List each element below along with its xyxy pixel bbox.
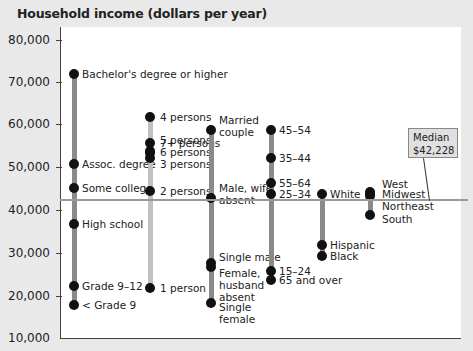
point-label: High school (82, 218, 143, 230)
range-line (209, 130, 214, 303)
y-tick-mark (56, 82, 62, 83)
median-box: Median $42,228 (408, 128, 458, 158)
data-point (266, 125, 276, 135)
y-tick-label: 60,000 (0, 117, 50, 131)
chart-title: Household income (dollars per year) (17, 6, 267, 21)
point-label: Singlefemale (219, 301, 255, 325)
point-label: Marriedcouple (219, 114, 259, 138)
y-tick-mark (56, 296, 62, 297)
data-point (266, 153, 276, 163)
y-tick-label: 20,000 (0, 289, 50, 303)
data-point (266, 275, 276, 285)
median-label: Median (413, 131, 453, 144)
y-tick-label: 10,000 (0, 331, 50, 345)
point-label: < Grade 9 (82, 299, 136, 311)
point-label: 6 persons (160, 146, 211, 158)
point-label: Northeast (382, 200, 434, 212)
data-point (69, 183, 79, 193)
point-label: Male, wifeabsent (219, 182, 272, 206)
point-label: 35–44 (279, 152, 311, 164)
y-tick-mark (56, 253, 62, 254)
y-tick-label: 40,000 (0, 203, 50, 217)
point-label: Female,husbandabsent (219, 267, 264, 303)
y-tick-mark (56, 210, 62, 211)
y-tick-mark (56, 167, 62, 168)
data-point (69, 219, 79, 229)
median-line (60, 199, 468, 201)
point-label: Grade 9–12 (82, 280, 143, 292)
point-label: South (382, 213, 413, 225)
point-label: 2 persons (160, 185, 211, 197)
y-tick-label: 70,000 (0, 75, 50, 89)
data-point (145, 186, 155, 196)
point-label: Bachelor's degree or higher (82, 68, 228, 80)
y-tick-label: 30,000 (0, 246, 50, 260)
y-tick-label: 50,000 (0, 160, 50, 174)
y-tick-label: 80,000 (0, 33, 50, 47)
y-tick-mark (56, 40, 62, 41)
data-point (206, 125, 216, 135)
point-label: Some college (82, 182, 153, 194)
point-label: Black (330, 250, 358, 262)
data-point (145, 153, 155, 163)
point-label: 1 person (160, 282, 206, 294)
y-tick-mark (56, 124, 62, 125)
point-label: 3 persons (160, 158, 211, 170)
data-point (145, 112, 155, 122)
point-label: 45–54 (279, 124, 311, 136)
point-label: 4 persons (160, 111, 211, 123)
point-label: 65 and over (279, 274, 342, 286)
data-point (206, 262, 216, 272)
median-value: $42,228 (413, 144, 453, 157)
